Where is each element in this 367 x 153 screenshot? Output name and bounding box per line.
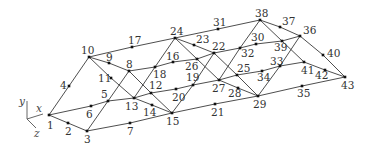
node-22-marker bbox=[213, 52, 216, 55]
x-axis-label: x bbox=[36, 102, 42, 114]
y-axis-label: y bbox=[18, 95, 26, 107]
node-30-marker bbox=[255, 43, 258, 46]
node-28-label: 28 bbox=[228, 87, 241, 99]
node-17-marker bbox=[131, 46, 134, 49]
node-43-label: 43 bbox=[341, 79, 354, 91]
node-10-label: 10 bbox=[81, 44, 94, 56]
node-39-label: 39 bbox=[274, 41, 287, 53]
truss-diagram: yxz 123456789101112131415161718192021222… bbox=[0, 0, 367, 153]
node-3-label: 3 bbox=[84, 133, 91, 145]
node-19-label: 19 bbox=[186, 71, 199, 83]
node-21-label: 21 bbox=[211, 106, 224, 118]
node-33-label: 33 bbox=[270, 55, 283, 67]
node-1-label: 1 bbox=[47, 119, 54, 131]
node-13-marker bbox=[133, 97, 136, 100]
node-20-label: 20 bbox=[172, 91, 185, 103]
node-15-label: 15 bbox=[166, 115, 179, 127]
node-38-marker bbox=[259, 19, 262, 22]
node-34-label: 34 bbox=[257, 71, 271, 83]
node-8-marker bbox=[128, 70, 131, 73]
node-12-marker bbox=[150, 92, 153, 95]
node-4-label: 4 bbox=[60, 79, 67, 91]
node-42-label: 42 bbox=[315, 69, 328, 81]
node-31-label: 31 bbox=[213, 16, 226, 28]
node-43-marker bbox=[344, 76, 347, 79]
node-41-label: 41 bbox=[301, 64, 314, 76]
node-4-marker bbox=[68, 85, 71, 88]
node-38-label: 38 bbox=[255, 7, 268, 19]
node-17-label: 17 bbox=[128, 34, 141, 46]
node-18-label: 18 bbox=[153, 68, 166, 80]
node-27-marker bbox=[218, 79, 221, 82]
node-2-label: 2 bbox=[65, 125, 72, 137]
node-11-label: 11 bbox=[98, 72, 111, 84]
node-41-marker bbox=[303, 61, 306, 64]
z-axis-label: z bbox=[33, 127, 40, 139]
node-37-marker bbox=[279, 26, 282, 29]
node-7-label: 7 bbox=[127, 125, 134, 137]
node-3-marker bbox=[86, 130, 89, 133]
node-16-label: 16 bbox=[166, 50, 180, 62]
node-23-label: 23 bbox=[196, 33, 209, 45]
node-8-label: 8 bbox=[126, 58, 133, 70]
node-35-label: 35 bbox=[297, 87, 310, 99]
node-13-label: 13 bbox=[125, 100, 138, 112]
node-32-label: 32 bbox=[241, 47, 254, 59]
node-30-label: 30 bbox=[251, 31, 264, 43]
node-36-label: 36 bbox=[303, 24, 317, 36]
node-12-label: 12 bbox=[149, 79, 162, 91]
node-25-label: 25 bbox=[237, 62, 250, 74]
node-37-label: 37 bbox=[282, 15, 295, 27]
node-29-label: 29 bbox=[253, 98, 266, 110]
node-5-label: 5 bbox=[101, 88, 108, 100]
node-24-marker bbox=[174, 37, 177, 40]
node-40-marker bbox=[322, 54, 325, 57]
node-21-marker bbox=[214, 103, 217, 106]
node-40-label: 40 bbox=[327, 47, 340, 59]
node-labels: 1234567891011121314151617181920212223242… bbox=[47, 7, 354, 145]
node-14-label: 14 bbox=[143, 106, 157, 118]
coordinate-axes: yxz bbox=[18, 95, 43, 139]
node-36-marker bbox=[299, 35, 302, 38]
node-10-marker bbox=[88, 56, 91, 59]
node-6-label: 6 bbox=[86, 108, 93, 120]
node-9-label: 9 bbox=[106, 51, 113, 63]
node-23-marker bbox=[193, 44, 196, 47]
node-27-label: 27 bbox=[212, 82, 225, 94]
node-26-label: 26 bbox=[185, 60, 199, 72]
node-24-label: 24 bbox=[170, 25, 184, 37]
x-axis-line bbox=[27, 114, 43, 119]
node-19-marker bbox=[192, 84, 195, 87]
node-2-marker bbox=[67, 122, 70, 125]
node-20-marker bbox=[175, 88, 178, 91]
node-22-label: 22 bbox=[212, 40, 225, 52]
node-7-marker bbox=[129, 122, 132, 125]
node-5-marker bbox=[107, 100, 110, 103]
node-31-marker bbox=[217, 28, 220, 31]
node-15-marker bbox=[171, 112, 174, 115]
node-25-marker bbox=[236, 74, 239, 77]
node-29-marker bbox=[257, 95, 260, 98]
node-6-marker bbox=[90, 105, 93, 108]
truss-canvas: yxz 123456789101112131415161718192021222… bbox=[0, 0, 367, 153]
node-1-marker bbox=[48, 114, 51, 117]
